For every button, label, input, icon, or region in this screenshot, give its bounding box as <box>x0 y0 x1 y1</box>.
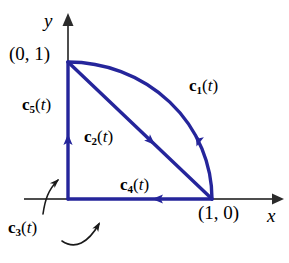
c2-letter: c <box>84 127 92 146</box>
curve-label-c1: c1(t) <box>189 77 218 96</box>
curve-label-c2: c2(t) <box>84 128 113 147</box>
y-axis-arrowhead <box>63 13 74 26</box>
curve-label-c3: c3(t) <box>8 219 37 238</box>
c2-paren-close: ) <box>107 127 113 146</box>
vector-field-path-diagram: y x (0, 1) (1, 0) c1(t) c2(t) c3(t) c4(t… <box>0 0 289 263</box>
c3-leader-to-vertical-arrowhead <box>50 177 62 188</box>
point-label-0-1: (0, 1) <box>9 44 50 63</box>
c3-leader-to-horizontal-arrowhead <box>92 220 103 232</box>
curve-label-c4: c4(t) <box>120 176 149 195</box>
c4-paren-close: ) <box>143 175 149 194</box>
c5-paren-close: ) <box>45 95 51 114</box>
curve-c4-horizontal <box>68 194 212 203</box>
c1-paren-close: ) <box>212 76 218 95</box>
c3-leader-to-horizontal-path <box>62 224 99 245</box>
curve-c5-vertical <box>63 62 72 199</box>
c4-letter: c <box>120 175 128 194</box>
c3-leader-arrows <box>43 177 103 245</box>
point-label-1-0: (1, 0) <box>198 203 239 222</box>
x-axis-arrowhead <box>272 194 284 205</box>
coordinate-axes <box>24 13 284 205</box>
diagram-canvas <box>0 0 289 263</box>
curve-label-c5: c5(t) <box>22 96 51 115</box>
x-axis-label: x <box>267 206 275 225</box>
c5-letter: c <box>22 95 30 114</box>
c1-letter: c <box>189 76 197 95</box>
c3-paren-close: ) <box>31 218 37 237</box>
c3-letter: c <box>8 218 16 237</box>
y-axis-label: y <box>44 11 52 30</box>
